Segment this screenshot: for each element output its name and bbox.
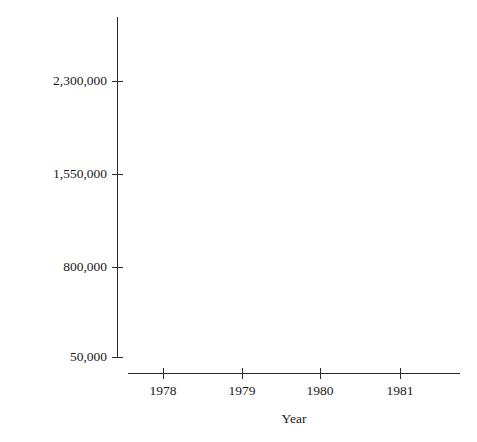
x-axis-tick-label: 1978 xyxy=(128,384,198,398)
y-axis-tick-label: 50,000 xyxy=(3,350,107,364)
y-axis-tick xyxy=(112,267,123,268)
plot-area xyxy=(118,17,460,373)
x-axis-line xyxy=(128,373,460,374)
x-axis-tick xyxy=(163,368,164,379)
y-axis-title: Acres xyxy=(12,186,36,258)
y-axis-tick-label: 2,300,000 xyxy=(3,74,107,88)
x-axis-tick xyxy=(320,368,321,379)
x-axis-title: Year xyxy=(128,412,460,426)
y-axis-tick-label: 1,550,000 xyxy=(3,167,107,181)
x-axis-tick-label: 1979 xyxy=(207,384,277,398)
y-axis-line xyxy=(117,17,118,357)
chart-figure: 2,300,000 1,550,000 800,000 50,000 1978 … xyxy=(0,0,477,442)
y-axis-tick xyxy=(112,81,123,82)
y-axis-tick-label: 800,000 xyxy=(3,260,107,274)
x-axis-tick xyxy=(242,368,243,379)
x-axis-tick-label: 1981 xyxy=(365,384,435,398)
x-axis-tick-label: 1980 xyxy=(285,384,355,398)
x-axis-tick xyxy=(400,368,401,379)
chart-title-cropped xyxy=(0,0,477,6)
y-axis-tick xyxy=(112,174,123,175)
y-axis-tick xyxy=(112,357,123,358)
